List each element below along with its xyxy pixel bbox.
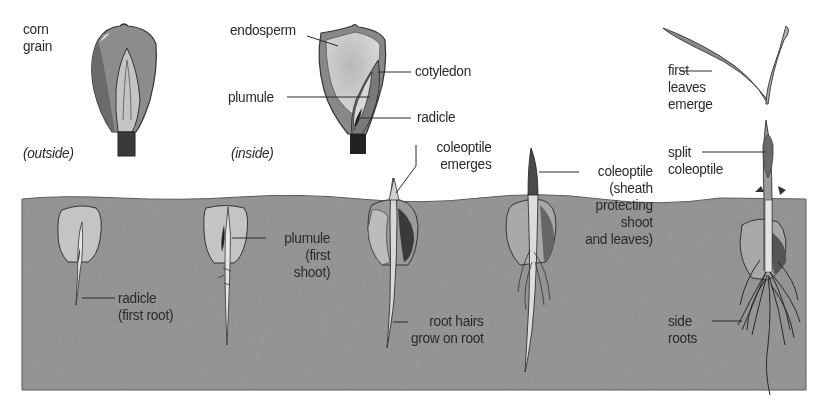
outside-caption: (outside) bbox=[23, 144, 74, 161]
corn-grain-inside bbox=[287, 25, 411, 154]
plumule-label: plumule bbox=[228, 88, 274, 105]
stage-5-top-label: first leaves emerge bbox=[668, 61, 713, 112]
inside-caption: (inside) bbox=[231, 144, 274, 161]
corn-grain-outside bbox=[92, 24, 157, 156]
stage-3-top-label: coleoptile emerges bbox=[436, 138, 491, 172]
corn-grain-label: corn grain bbox=[23, 20, 52, 54]
cotyledon-label: cotyledon bbox=[415, 62, 471, 79]
endosperm-label: endosperm bbox=[230, 21, 296, 38]
radicle-label: radicle bbox=[417, 108, 455, 125]
stage-2-label: plumule (first shoot) bbox=[284, 229, 330, 280]
germination-diagram: corn grain (outside) endosperm cotyledon… bbox=[0, 0, 816, 402]
stage-5-mid-label: split coleoptile bbox=[668, 143, 723, 177]
stage-4-label: coleoptile (sheath protecting shoot and … bbox=[585, 162, 653, 247]
stage-5-bottom-label: side roots bbox=[668, 312, 697, 346]
stage-3-bottom-label: root hairs grow on root bbox=[411, 312, 484, 346]
stage-1-label: radicle (first root) bbox=[118, 289, 173, 323]
